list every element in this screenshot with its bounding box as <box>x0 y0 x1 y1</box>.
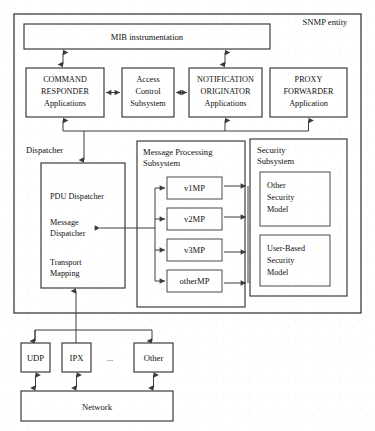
access-control-line2: Control <box>135 87 161 96</box>
user-based-security-model-line2: Security <box>267 256 295 265</box>
notification-originator-line3: Applications <box>205 99 247 108</box>
access-control-line1: Access <box>136 75 159 84</box>
transport-mapping-line1: Transport <box>50 258 82 267</box>
snmp-architecture-diagram: SNMP entity MIB instrumentation COMMAND … <box>0 0 375 431</box>
message-dispatcher-line1: Message <box>50 218 79 227</box>
notification-originator-line2: ORIGINATOR <box>201 87 251 96</box>
user-based-security-model-line1: User-Based <box>267 244 305 253</box>
security-subsystem-label-line1: Security <box>257 145 286 155</box>
dispatcher-label: Dispatcher <box>26 145 63 155</box>
user-based-security-model-line3: Model <box>267 268 289 277</box>
other-security-model-line2: Security <box>267 193 295 202</box>
transport-mapping-line2: Mapping <box>50 269 80 278</box>
pdu-dispatcher-label: PDU Dispatcher <box>50 192 104 201</box>
transport-ellipsis-label: ... <box>107 353 113 363</box>
network-label: Network <box>82 402 113 412</box>
command-responder-line3: Applications <box>44 99 86 108</box>
other-transport-label: Other <box>144 353 164 363</box>
othermp-label: otherMP <box>179 276 209 286</box>
message-processing-label-line1: Message Processing <box>143 147 213 157</box>
v2mp-label: v2MP <box>184 214 205 224</box>
connector-bus-apps-to-dispatcher <box>63 121 309 132</box>
access-control-line3: Subsystem <box>130 99 166 108</box>
notification-originator-line1: NOTIFICATION <box>197 75 254 84</box>
other-security-model-line1: Other <box>267 181 286 190</box>
other-security-model-line3: Model <box>267 205 289 214</box>
ipx-label: IPX <box>70 353 85 363</box>
proxy-forwarder-line2: FORWARDER <box>283 87 334 96</box>
v1mp-label: v1MP <box>184 183 205 193</box>
snmp-entity-label: SNMP entity <box>303 17 349 27</box>
command-responder-line1: COMMAND <box>43 75 87 84</box>
udp-label: UDP <box>27 353 44 363</box>
mib-instrumentation-label: MIB instrumentation <box>111 32 184 42</box>
security-subsystem-label-line2: Subsystem <box>257 156 295 166</box>
connector-transport-bus <box>35 330 152 341</box>
proxy-forwarder-line3: Application <box>289 99 328 108</box>
proxy-forwarder-line1: PROXY <box>295 75 323 84</box>
message-dispatcher-line2: Dispatcher <box>50 229 86 238</box>
command-responder-line2: RESPONDER <box>41 87 89 96</box>
message-processing-label-line2: Subsystem <box>143 158 181 168</box>
v3mp-label: v3MP <box>184 245 205 255</box>
